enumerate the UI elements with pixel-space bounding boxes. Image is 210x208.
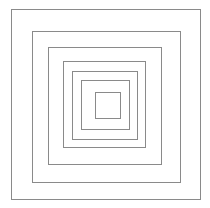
drawing-canvas bbox=[0, 0, 210, 208]
square-7-innermost bbox=[95, 92, 121, 119]
